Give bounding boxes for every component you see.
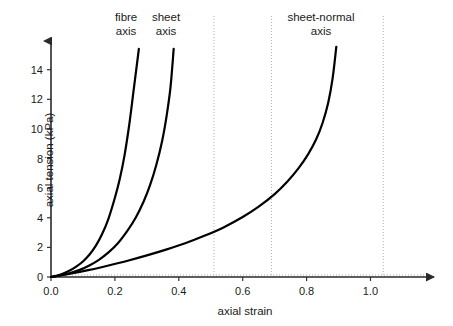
series-line-fibre-axis xyxy=(51,49,139,277)
x-tick-label-2: 0.4 xyxy=(171,285,186,297)
annotation-line2: axis xyxy=(115,24,137,38)
data-series-group xyxy=(51,47,336,277)
series-line-sheet-axis xyxy=(51,49,174,277)
annotation-0: fibreaxis xyxy=(115,10,137,38)
x-tick-label-1: 0.2 xyxy=(107,285,122,297)
x-tick-label-5: 1.0 xyxy=(363,285,378,297)
annotation-line2: axis xyxy=(152,24,180,38)
annotation-line1: sheet xyxy=(152,10,180,24)
annotation-1: sheetaxis xyxy=(152,10,180,38)
y-tick-label-6: 12 xyxy=(17,93,43,105)
annotation-line2: axis xyxy=(287,24,354,38)
x-tick-label-3: 0.6 xyxy=(235,285,250,297)
x-tick-label-4: 0.8 xyxy=(299,285,314,297)
chart-plot-area xyxy=(0,0,453,326)
annotation-line1: fibre xyxy=(115,10,137,24)
y-tick-label-0: 0 xyxy=(17,271,43,283)
y-tick-label-4: 8 xyxy=(17,153,43,165)
series-line-sheet-normal-axis xyxy=(51,47,336,277)
y-tick-label-5: 10 xyxy=(17,123,43,135)
annotation-line1: sheet-normal xyxy=(287,10,354,24)
annotation-2: sheet-normalaxis xyxy=(287,10,354,38)
y-tick-label-2: 4 xyxy=(17,212,43,224)
y-tick-label-1: 2 xyxy=(17,241,43,253)
gridline-group xyxy=(51,16,428,277)
x-tick-label-0: 0.0 xyxy=(43,285,58,297)
x-axis-title: axial strain xyxy=(218,305,273,317)
chart-figure: 0.00.20.40.60.81.0 02468101214 axial str… xyxy=(0,0,453,326)
y-axis-title: axial tension (kPa) xyxy=(43,113,55,208)
y-tick-label-3: 6 xyxy=(17,182,43,194)
y-tick-label-7: 14 xyxy=(17,64,43,76)
